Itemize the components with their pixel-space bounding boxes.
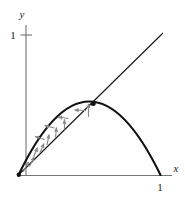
field-arrow: [56, 128, 57, 138]
field-arrow: [75, 110, 87, 111]
figure-container: y x 1 1: [0, 0, 185, 200]
field-arrow: [58, 117, 69, 119]
origin-point: [17, 173, 21, 177]
intersection-point: [91, 101, 96, 106]
field-arrow: [30, 157, 35, 167]
x-axis-label: x: [173, 162, 179, 174]
y-axis-label: y: [19, 8, 25, 20]
x-tick-label-1: 1: [157, 181, 163, 193]
y-tick-label-1: 1: [10, 29, 16, 41]
field-arrow: [34, 148, 38, 158]
field-arrow: [47, 135, 49, 146]
math-figure: y x 1 1: [0, 0, 185, 200]
curves-group: [17, 33, 163, 177]
